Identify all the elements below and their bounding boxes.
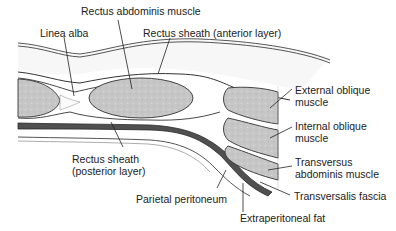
- label-line: External oblique: [295, 84, 370, 96]
- label-line: (posterior layer): [72, 165, 146, 177]
- label-linea-alba: Linea alba: [40, 27, 88, 39]
- label-transversalis-fascia: Transversalis fascia: [294, 190, 386, 202]
- label-parietal-peritoneum: Parietal peritoneum: [136, 193, 227, 205]
- label-external-oblique-muscle: External oblique muscle: [295, 84, 370, 108]
- label-line: Transversus: [295, 156, 379, 168]
- rectus-abdominis-muscle: [89, 78, 193, 118]
- label-extraperitoneal-fat: Extraperitoneal fat: [240, 212, 325, 224]
- label-rectus-sheath-anterior: Rectus sheath (anterior layer): [143, 27, 281, 39]
- label-internal-oblique-muscle: Internal oblique muscle: [295, 120, 367, 144]
- label-line: muscle: [295, 96, 370, 108]
- label-line: muscle: [295, 132, 367, 144]
- label-line: Internal oblique: [295, 120, 367, 132]
- label-transversus-abdominis-muscle: Transversus abdominis muscle: [295, 156, 379, 180]
- label-rectus-sheath-posterior: Rectus sheath (posterior layer): [72, 153, 146, 177]
- label-line: Rectus sheath: [72, 153, 146, 165]
- label-rectus-abdominis-muscle: Rectus abdominis muscle: [81, 5, 201, 17]
- label-line: abdominis muscle: [295, 168, 379, 180]
- linea-alba-region: [60, 95, 80, 110]
- left-rectus-muscle: [18, 79, 60, 117]
